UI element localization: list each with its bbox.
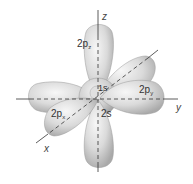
label-2s: 2s	[101, 108, 112, 119]
label-1s: 1s	[98, 83, 108, 93]
axis-label-x: x	[43, 143, 50, 154]
orbital-diagram: z y x 2pz 2py 2px 1s 2s	[0, 0, 193, 184]
axis-label-y: y	[175, 102, 182, 113]
axis-label-z: z	[101, 11, 107, 22]
